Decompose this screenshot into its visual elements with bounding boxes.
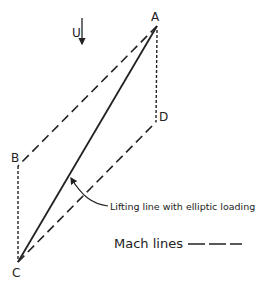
point-label-a: A <box>151 10 160 24</box>
annotation-leader-arrow <box>71 178 108 206</box>
flow-label-u: U <box>72 26 81 40</box>
lifting-line-a-c <box>18 26 157 262</box>
point-label-b: B <box>11 151 19 165</box>
edge-a-d <box>156 30 157 122</box>
annotation-text: Lifting line with elliptic loading <box>110 201 255 212</box>
point-label-c: C <box>12 266 20 280</box>
point-label-d: D <box>159 110 168 124</box>
legend-label: Mach lines <box>114 236 183 251</box>
diagram-canvas: A B C D U Lifting line with elliptic loa… <box>0 0 270 284</box>
